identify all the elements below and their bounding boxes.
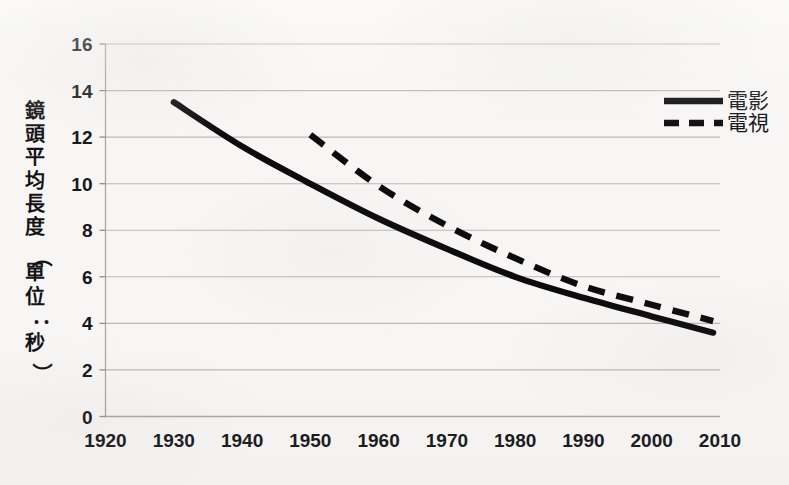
legend-label-television: 電視 <box>727 111 769 135</box>
y-tick-label-14: 14 <box>71 81 93 102</box>
y-tick-label-10: 10 <box>71 174 92 195</box>
y-tick-label-16: 16 <box>71 34 92 55</box>
y-tick-label-8: 8 <box>82 220 93 241</box>
line-chart-figure: 0246810121416 19201930194019501960197019… <box>0 0 789 485</box>
x-tick-label-1960: 1960 <box>357 430 399 451</box>
legend-label-film: 電影 <box>727 89 769 113</box>
y-axis-title-char-4: 長 <box>25 192 46 216</box>
x-tick-label-2010: 2010 <box>699 430 741 451</box>
y-tick-label-12: 12 <box>71 127 92 148</box>
x-tick-label-1940: 1940 <box>221 430 263 451</box>
series-line-television <box>310 135 713 321</box>
y-axis-tickmarks <box>100 44 106 417</box>
x-tick-label-1990: 1990 <box>562 430 604 451</box>
x-tick-label-1980: 1980 <box>494 430 536 451</box>
x-tick-label-1970: 1970 <box>426 430 468 451</box>
x-tick-label-1950: 1950 <box>289 430 331 451</box>
y-axis-title: 鏡頭平均長度（單位：秒） <box>25 99 54 383</box>
x-axis-tick-labels: 1920193019401950196019701980199020002010 <box>84 430 741 451</box>
y-axis-title-char-10: 秒 <box>25 331 45 355</box>
y-axis-title-char-0: 鏡 <box>25 99 45 123</box>
y-axis-title-char-2: 平 <box>25 145 45 169</box>
y-tick-label-0: 0 <box>82 407 93 428</box>
y-axis-title-char-5: 度 <box>25 215 46 239</box>
x-tick-label-2000: 2000 <box>631 430 673 451</box>
y-axis-tick-labels: 0246810121416 <box>71 34 93 428</box>
y-tick-label-2: 2 <box>82 360 93 381</box>
y-tick-label-4: 4 <box>82 313 93 334</box>
y-axis-title-char-7: 單 <box>25 261 45 285</box>
y-axis-title-char-8: 位 <box>25 285 45 309</box>
x-tick-label-1920: 1920 <box>84 430 126 451</box>
y-tick-label-6: 6 <box>82 267 93 288</box>
y-axis-title-char-11: ） <box>30 363 54 383</box>
chart-canvas: 0246810121416 19201930194019501960197019… <box>0 0 789 485</box>
chart-legend: 電影 電視 <box>664 89 769 135</box>
y-axis-title-char-3: 均 <box>25 169 45 193</box>
x-tick-label-1930: 1930 <box>153 430 195 451</box>
y-axis-title-char-1: 頭 <box>25 122 46 146</box>
